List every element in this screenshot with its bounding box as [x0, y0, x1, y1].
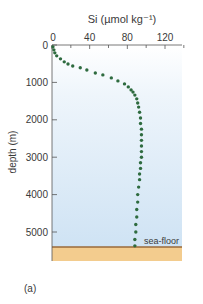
data-point: [140, 127, 143, 130]
data-point: [131, 90, 134, 93]
data-point: [133, 238, 136, 241]
panel-label: (a): [24, 283, 36, 294]
data-point: [136, 101, 139, 104]
data-point: [53, 51, 56, 54]
data-point: [123, 82, 126, 85]
data-point: [137, 105, 140, 108]
silicate-depth-profile-chart: Si (µmol kg⁻¹) depth (m) 04080120 010002…: [0, 0, 203, 304]
data-point: [63, 60, 66, 63]
x-tick-label: 80: [122, 32, 134, 43]
data-point: [140, 150, 143, 153]
data-point: [79, 66, 82, 69]
x-tick-label: 40: [84, 32, 96, 43]
data-point: [139, 161, 142, 164]
y-tick-label: 3000: [26, 152, 49, 163]
sea-floor-annotation: sea-floor: [144, 236, 179, 246]
data-point: [139, 116, 142, 119]
data-point: [134, 223, 137, 226]
data-point: [138, 178, 141, 181]
data-point: [140, 156, 143, 159]
data-point: [140, 144, 143, 147]
data-point: [52, 48, 55, 51]
data-point: [139, 167, 142, 170]
data-point: [135, 97, 138, 100]
data-point: [110, 76, 113, 79]
data-point: [59, 57, 62, 60]
data-point: [55, 54, 58, 57]
x-tick-label: 120: [157, 32, 174, 43]
y-tick-label: 0: [42, 40, 48, 51]
data-point: [94, 71, 97, 74]
x-axis-label: Si (µmol kg⁻¹): [88, 13, 157, 25]
data-point: [101, 73, 104, 76]
data-point: [71, 64, 74, 67]
y-tick-label: 4000: [26, 189, 49, 200]
data-point: [133, 93, 136, 96]
y-tick-label: 2000: [26, 114, 49, 125]
data-point: [134, 230, 137, 233]
data-point: [135, 208, 138, 211]
y-tick-labels: 010002000300040005000: [26, 40, 49, 238]
data-point: [116, 79, 119, 82]
y-tick-label: 1000: [26, 77, 49, 88]
data-point: [140, 133, 143, 136]
data-point: [51, 45, 54, 48]
x-tick-labels: 04080120: [50, 32, 174, 43]
data-point: [138, 172, 141, 175]
water-column: [52, 45, 182, 247]
data-point: [136, 193, 139, 196]
data-point: [135, 215, 138, 218]
data-point: [138, 111, 141, 114]
y-axis-label: depth (m): [7, 131, 18, 174]
x-tick-label: 0: [50, 32, 56, 43]
data-point: [137, 185, 140, 188]
data-point: [133, 244, 136, 247]
sediment-layer: [52, 247, 182, 261]
data-point: [127, 85, 130, 88]
data-point: [66, 62, 69, 65]
data-point: [136, 200, 139, 203]
y-tick-label: 5000: [26, 227, 49, 238]
data-point: [85, 68, 88, 71]
data-point: [140, 139, 143, 142]
data-point: [139, 122, 142, 125]
